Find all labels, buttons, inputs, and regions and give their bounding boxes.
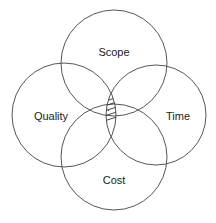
cost-circle (61, 104, 167, 210)
cost-label: Cost (103, 174, 126, 186)
time-circle (106, 65, 206, 165)
venn-diagram: Scope Quality Time Cost (0, 0, 216, 223)
scope-label: Scope (98, 46, 129, 58)
quality-label: Quality (34, 110, 69, 122)
time-label: Time (166, 110, 190, 122)
